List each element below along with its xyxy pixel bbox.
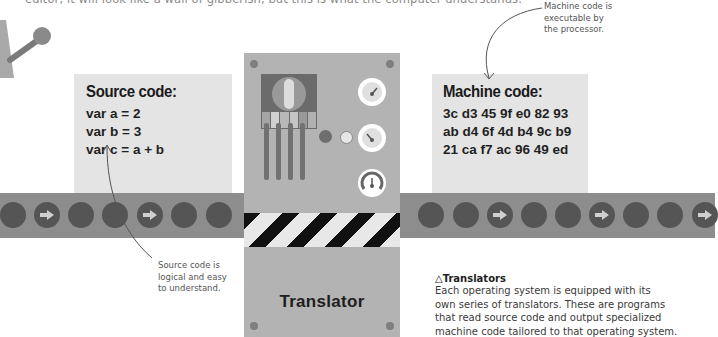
caption-body: Each operating system is equipped with i… (435, 284, 677, 337)
display-panel (261, 74, 317, 129)
screw-icon (250, 322, 258, 330)
translator-label: Translator (244, 292, 400, 312)
vent-bar (264, 123, 269, 180)
gauge-icon (358, 169, 386, 197)
caption: △Translators Each operating system is eq… (435, 273, 677, 337)
machine-code-note: Machine code is executable by the proces… (544, 1, 612, 36)
indicator-light-bright (340, 131, 353, 144)
caption-title: △Translators (435, 273, 677, 284)
translator-machine: Translator (244, 53, 400, 337)
screw-icon (386, 322, 394, 330)
gauge-icon (358, 78, 386, 106)
vent-bar (276, 123, 281, 180)
indicator-light-dark (319, 130, 332, 143)
hazard-stripes (244, 213, 400, 247)
vent-bar (300, 123, 305, 180)
gauge-icon (358, 124, 386, 152)
vent-bar (288, 123, 293, 180)
screw-icon (250, 60, 258, 68)
screw-icon (386, 60, 394, 68)
triangle-up-icon: △ (435, 273, 443, 284)
dial-icon (272, 77, 306, 111)
source-code-note: Source code is logical and easy to under… (158, 260, 227, 295)
